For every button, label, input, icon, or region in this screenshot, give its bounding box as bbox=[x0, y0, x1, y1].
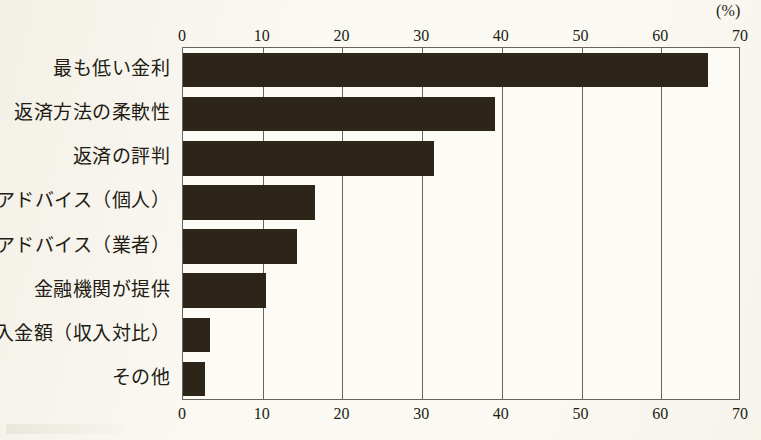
category-label: アドバイス（業者） bbox=[0, 224, 170, 268]
category-label: その他 bbox=[112, 356, 171, 400]
bar bbox=[183, 97, 495, 131]
bar-row bbox=[183, 225, 739, 269]
x-axis-tick-label: 10 bbox=[254, 26, 270, 46]
bar bbox=[183, 141, 434, 175]
bar bbox=[183, 362, 205, 396]
bar-row bbox=[183, 313, 739, 357]
chart-page: (%) 010203040506070 最も低い金利返済方法の柔軟性返済の評判ア… bbox=[0, 0, 761, 440]
unit-label: (%) bbox=[716, 2, 741, 20]
bar bbox=[183, 273, 266, 307]
x-axis-tick-label: 0 bbox=[178, 404, 186, 424]
bar bbox=[183, 185, 315, 219]
x-axis-tick-label: 0 bbox=[178, 26, 186, 46]
category-label: 借入金額（収入対比） bbox=[0, 312, 170, 356]
category-label: アドバイス（個人） bbox=[0, 179, 170, 223]
category-label: 返済方法の柔軟性 bbox=[14, 91, 170, 135]
scan-artifact bbox=[6, 424, 126, 434]
x-axis-tick-label: 50 bbox=[573, 404, 589, 424]
category-label: 返済の評判 bbox=[73, 135, 171, 179]
x-axis-tick-label: 60 bbox=[652, 404, 668, 424]
x-axis-tick-label: 30 bbox=[413, 26, 429, 46]
bar bbox=[183, 229, 297, 263]
x-axis-tick-label: 70 bbox=[732, 26, 748, 46]
x-axis-tick-label: 20 bbox=[333, 26, 349, 46]
x-axis-labels-bottom: 010203040506070 bbox=[0, 404, 761, 424]
category-label: 金融機関が提供 bbox=[34, 268, 171, 312]
x-axis-tick-label: 40 bbox=[493, 404, 509, 424]
plot-area bbox=[182, 47, 740, 400]
bar-row bbox=[183, 136, 739, 180]
bar-row bbox=[183, 180, 739, 224]
category-label: 最も低い金利 bbox=[53, 47, 170, 91]
bar bbox=[183, 318, 210, 352]
x-axis-tick-label: 10 bbox=[254, 404, 270, 424]
x-axis-tick-label: 60 bbox=[652, 26, 668, 46]
bar-row bbox=[183, 48, 739, 92]
bar-row bbox=[183, 92, 739, 136]
bar bbox=[183, 53, 708, 87]
bar-row bbox=[183, 357, 739, 401]
x-axis-tick-label: 40 bbox=[493, 26, 509, 46]
x-axis-tick-label: 50 bbox=[573, 26, 589, 46]
x-axis-tick-label: 70 bbox=[732, 404, 748, 424]
x-axis-tick-label: 20 bbox=[333, 404, 349, 424]
x-axis-tick-label: 30 bbox=[413, 404, 429, 424]
y-axis-category-labels: 最も低い金利返済方法の柔軟性返済の評判アドバイス（個人）アドバイス（業者）金融機… bbox=[0, 47, 176, 400]
x-axis-labels-top: 010203040506070 bbox=[0, 26, 761, 46]
bar-row bbox=[183, 269, 739, 313]
bar-series bbox=[183, 48, 739, 399]
